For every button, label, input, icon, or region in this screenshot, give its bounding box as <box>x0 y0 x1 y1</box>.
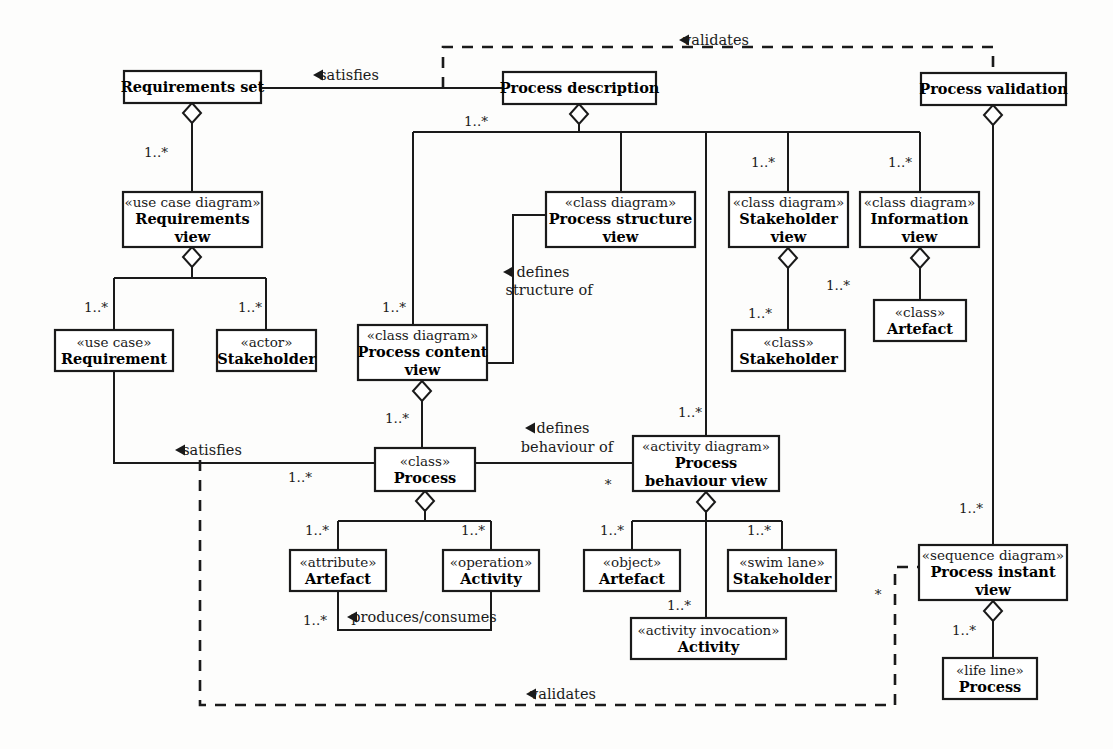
uml-class-box-process-instant-view[interactable]: «sequence diagram»Process instantview <box>919 545 1067 600</box>
multiplicity-m-behaviour-swimlane: 1..* <box>747 522 771 538</box>
uml-class-box-stakeholder-swimlane[interactable]: «swim lane»Stakeholder <box>728 550 836 591</box>
multiplicity-m-reqview-requirement: 1..* <box>84 299 108 315</box>
box-name: Process instant <box>930 563 1055 580</box>
diamond-reqview <box>183 247 201 267</box>
box-name: Requirements set <box>121 78 265 95</box>
multiplicity-m-behaviour-invocation: 1..* <box>667 597 691 613</box>
box-name: Information <box>870 210 968 227</box>
uml-class-box-requirements-set[interactable]: Requirements set <box>121 71 265 103</box>
uml-class-box-process-structure-view[interactable]: «class diagram»Process structureview <box>546 192 695 247</box>
multiplicity-m-procdesc-infoview: 1..* <box>888 154 912 170</box>
diamond-reqset <box>183 103 201 123</box>
multiplicity-m-procdesc-stakeview: 1..* <box>751 154 775 170</box>
box-stereotype: «activity invocation» <box>637 622 779 638</box>
box-name: view <box>602 228 639 245</box>
uml-diagram-canvas: Requirements setProcess descriptionProce… <box>0 0 1113 749</box>
uml-class-box-process-class[interactable]: «class»Process <box>375 448 475 491</box>
box-stereotype: «operation» <box>450 554 532 570</box>
multiplicity-m-attribute-produces: 1..* <box>303 612 327 628</box>
box-name: Stakeholder <box>217 350 316 367</box>
box-name: Artefact <box>304 570 371 587</box>
uml-class-box-process-content-view[interactable]: «class diagram»Process contentview <box>358 325 488 380</box>
box-stereotype: «swim lane» <box>739 554 824 570</box>
box-stereotype: «class diagram» <box>367 327 479 343</box>
arrowhead-defines-structure-1 <box>503 267 513 278</box>
box-name: Artefact <box>886 320 953 337</box>
uml-class-box-artefact-attribute[interactable]: «attribute»Artefact <box>290 550 386 591</box>
edge-label-produces-consumes: produces/consumes <box>351 609 496 625</box>
uml-class-box-requirements-view[interactable]: «use case diagram»Requirementsview <box>123 192 262 247</box>
uml-class-box-stakeholder-class[interactable]: «class»Stakeholder <box>732 330 845 371</box>
box-stereotype: «class diagram» <box>565 194 677 210</box>
box-stereotype: «life line» <box>956 662 1024 678</box>
uml-class-box-stakeholder-view[interactable]: «class diagram»Stakeholderview <box>729 192 848 247</box>
box-stereotype: «activity diagram» <box>642 438 770 454</box>
multiplicity-m-validation-instant: 1..* <box>959 500 983 516</box>
diamond-stakeview <box>779 248 797 268</box>
multiplicity-m-behaviour-star: * <box>605 476 612 492</box>
box-name: Artefact <box>598 570 665 587</box>
uml-class-box-process-description[interactable]: Process description <box>500 72 660 104</box>
edge-label-satisfies-top: satisfies <box>319 67 379 83</box>
arrowhead-satisfies-top <box>313 70 323 81</box>
box-stereotype: «class» <box>763 334 813 350</box>
box-stereotype: «use case» <box>77 334 152 350</box>
uml-class-box-artefact-class[interactable]: «class»Artefact <box>874 300 966 341</box>
multiplicity-m-behaviour-object: 1..* <box>600 522 624 538</box>
box-name: Process structure <box>549 210 693 227</box>
box-name: behaviour view <box>645 472 767 489</box>
box-stereotype: «sequence diagram» <box>922 547 1064 563</box>
box-name: view <box>901 228 938 245</box>
uml-class-box-artefact-object[interactable]: «object»Artefact <box>584 550 680 591</box>
multiplicity-m-instant-star: * <box>875 586 882 602</box>
box-name: view <box>974 581 1011 598</box>
arrowhead-satisfies-mid <box>175 445 185 456</box>
edge-procdesc-split <box>413 124 920 132</box>
multiplicity-m-instant-lifeline: 1..* <box>952 622 976 638</box>
uml-class-box-activity-operation[interactable]: «operation»Activity <box>443 550 539 591</box>
uml-class-box-activity-invocation[interactable]: «activity invocation»Activity <box>631 618 786 659</box>
box-stereotype: «class diagram» <box>733 194 845 210</box>
diagram-svg: Requirements setProcess descriptionProce… <box>0 0 1113 749</box>
multiplicity-m-process-attribute: 1..* <box>305 522 329 538</box>
box-name: Stakeholder <box>739 210 838 227</box>
multiplicity-m-requirement-process: 1..* <box>288 469 312 485</box>
diamond-infoview <box>911 248 929 268</box>
box-name: view <box>770 228 807 245</box>
edge-label-validates-top: validates <box>682 32 749 48</box>
uml-class-box-process-behaviour-view[interactable]: «activity diagram»Processbehaviour view <box>633 436 779 491</box>
diamond-procdesc <box>570 104 588 124</box>
diamond-behaviourview <box>697 492 715 512</box>
box-name: Stakeholder <box>733 570 832 587</box>
box-name: Requirements <box>135 210 249 227</box>
multiplicity-m-reqset-reqview: 1..* <box>144 144 168 160</box>
arrowhead-defines-behaviour-1 <box>525 423 535 434</box>
uml-class-box-information-view[interactable]: «class diagram»Informationview <box>860 192 979 247</box>
multiplicity-m-process-operation: 1..* <box>461 522 485 538</box>
box-stereotype: «class» <box>400 453 450 469</box>
edge-satisfies-mid <box>114 371 375 463</box>
box-name: Activity <box>677 638 740 655</box>
uml-class-box-requirement[interactable]: «use case»Requirement <box>55 330 173 371</box>
box-stereotype: «attribute» <box>300 554 377 570</box>
edge-label-validates-bottom: validates <box>529 686 596 702</box>
box-stereotype: «actor» <box>240 334 292 350</box>
uml-class-box-process-validation[interactable]: Process validation <box>919 73 1068 105</box>
edge-label-defines-structure-2: structure of <box>505 282 594 298</box>
box-name: Process description <box>500 79 660 96</box>
uml-class-box-stakeholder-actor[interactable]: «actor»Stakeholder <box>217 330 316 371</box>
box-name: view <box>174 228 211 245</box>
uml-class-box-process-lifeline[interactable]: «life line»Process <box>943 658 1037 699</box>
box-name: Process <box>959 678 1022 695</box>
multiplicity-m-content-process: 1..* <box>385 410 409 426</box>
diamond-process <box>416 491 434 511</box>
multiplicity-m-content-view: 1..* <box>382 299 406 315</box>
multiplicity-m-procdesc-behaviour: 1..* <box>678 404 702 420</box>
box-stereotype: «class» <box>895 304 945 320</box>
connector-layer <box>114 47 1002 705</box>
box-name: Process <box>675 454 738 471</box>
box-stereotype: «use case diagram» <box>124 194 260 210</box>
multiplicity-m-stakeview-class: 1..* <box>748 305 772 321</box>
diamond-instantview <box>984 601 1002 621</box>
box-name: Stakeholder <box>739 350 838 367</box>
